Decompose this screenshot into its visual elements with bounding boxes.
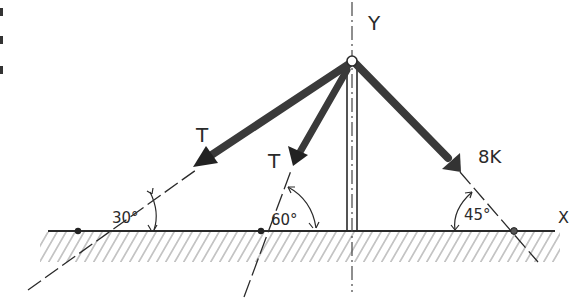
- y-axis-label: Y: [367, 11, 381, 35]
- free-body-diagram: Y X T T 8K 30° 60° 45°: [0, 0, 584, 308]
- force-label-T-left: T: [195, 123, 209, 147]
- force-arrow-8k: [356, 64, 461, 172]
- ground-hatch: [40, 232, 560, 262]
- cropped-text-fragments: [0, 8, 3, 74]
- angle-label-30: 30°: [112, 209, 139, 227]
- angle-label-60: 60°: [271, 211, 298, 229]
- angle-arcs: [147, 187, 472, 230]
- x-axis-label: X: [558, 208, 569, 227]
- angle-label-45: 45°: [464, 206, 491, 224]
- force-label-T-middle: T: [267, 149, 281, 173]
- force-label-8k: 8K: [478, 146, 502, 167]
- top-pin: [347, 56, 357, 66]
